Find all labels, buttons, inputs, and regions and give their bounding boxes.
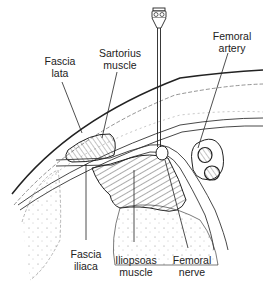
- leader-sartorius: [102, 72, 117, 138]
- label-femoral-nerve: Femoral nerve: [170, 254, 214, 278]
- femoral-artery: [198, 148, 212, 163]
- iliopsoas-muscle: [92, 155, 186, 211]
- leader-fascia-lata: [62, 82, 82, 133]
- femoral-vein: [205, 166, 220, 180]
- label-fascia-lata: Fascia lata: [40, 55, 80, 79]
- label-sartorius-muscle: Sartorius muscle: [92, 47, 148, 71]
- femoral-nerve: [156, 146, 168, 160]
- label-femoral-artery: Femoral artery: [210, 30, 254, 54]
- left-deep-tissue: [22, 170, 61, 280]
- label-iliopsoas-muscle: Iliopsoas muscle: [112, 254, 160, 278]
- label-fascia-iliaca: Fascia iliaca: [66, 248, 106, 272]
- needle: [152, 8, 166, 147]
- leader-femoral-artery: [198, 53, 228, 148]
